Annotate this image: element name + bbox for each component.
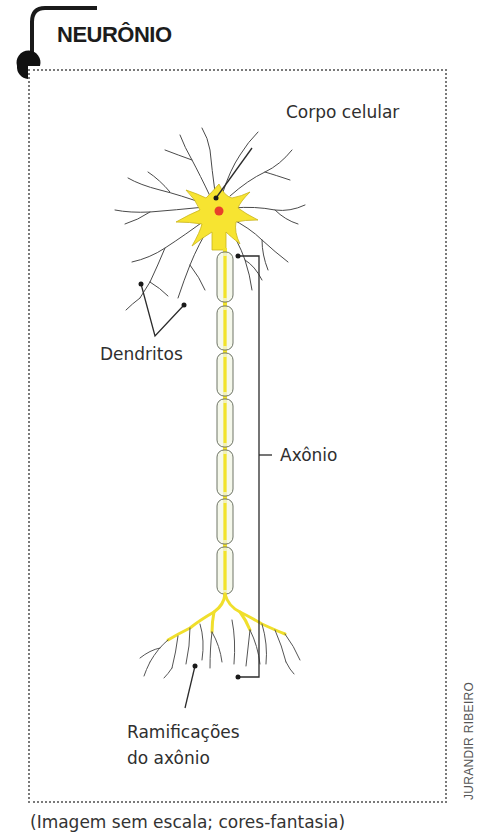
illustrator-credit: JURANDIR RIBEIRO — [462, 682, 476, 800]
label-axon-branches-line2: do axônio — [127, 746, 210, 770]
label-axon: Axônio — [280, 443, 337, 467]
header-curve-icon — [32, 8, 97, 58]
figure-caption: (Imagem sem escala; cores-fantasia) — [30, 812, 345, 832]
label-dendrites: Dendritos — [100, 342, 183, 366]
label-axon-branches-line1: Ramificações — [127, 720, 240, 744]
diagram-frame — [28, 69, 447, 803]
label-cell-body: Corpo celular — [286, 100, 399, 124]
